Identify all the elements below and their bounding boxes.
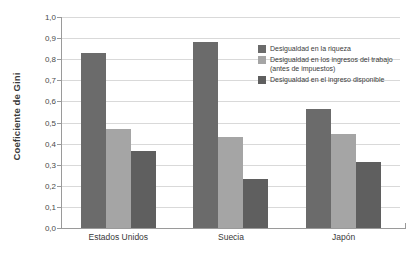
bar[interactable] [193,42,218,228]
y-axis-tick-label: 0,4 [45,139,56,148]
x-axis-category-label: Estados Unidos [62,232,175,242]
gini-bar-chart: Coeficiente de Gini 1,00,90,80,70,60,50,… [0,0,413,260]
bar[interactable] [243,179,268,228]
y-axis-tick-label: 0,5 [45,118,56,127]
y-axis-tick-label: 0,0 [45,224,56,233]
x-axis-end-tick [405,223,406,229]
x-axis-category-labels: Estados UnidosSueciaJapón [62,232,400,242]
legend-item[interactable]: Desigualdad en la riqueza [258,44,410,54]
legend-label: Desigualdad en los ingresos del trabajo … [270,55,410,74]
legend-label: Desigualdad en el ingreso disponible [270,75,384,85]
bar[interactable] [131,151,156,228]
bar-group [62,17,175,228]
y-axis-tick-label: 0,2 [45,181,56,190]
legend-swatch-icon [258,56,266,64]
bar[interactable] [106,129,131,228]
legend-label: Desigualdad en la riqueza [270,44,351,54]
x-axis-category-label: Japón [287,232,400,242]
x-axis-line [61,228,406,229]
y-axis-tick-label: 0,3 [45,160,56,169]
y-axis-tick-label: 1,0 [45,13,56,22]
y-axis-tick-label: 0,7 [45,76,56,85]
y-axis-tick-label: 0,9 [45,34,56,43]
y-axis-tick-label: 0,1 [45,202,56,211]
legend-swatch-icon [258,76,266,84]
chart-legend: Desigualdad en la riquezaDesigualdad en … [258,44,410,85]
x-axis-category-label: Suecia [175,232,288,242]
bar[interactable] [331,134,356,228]
legend-swatch-icon [258,45,266,53]
y-axis-title: Coeficiente de Gini [8,0,26,232]
y-axis-tick-labels: 1,00,90,80,70,60,50,40,30,20,10,0 [30,17,56,228]
bar[interactable] [306,109,331,228]
y-axis-title-label: Coeficiente de Gini [12,72,23,160]
legend-item[interactable]: Desigualdad en los ingresos del trabajo … [258,55,410,74]
y-axis-tick-label: 0,8 [45,55,56,64]
y-axis-tick-label: 0,6 [45,97,56,106]
bar[interactable] [81,53,106,228]
bar[interactable] [356,162,381,228]
legend-item[interactable]: Desigualdad en el ingreso disponible [258,75,410,85]
bar[interactable] [218,137,243,228]
